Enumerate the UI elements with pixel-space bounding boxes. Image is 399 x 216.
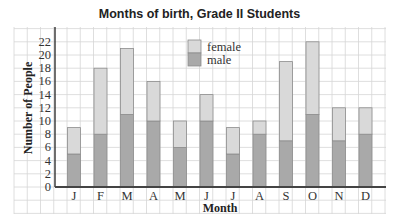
bar-chart: 0246810121416182022 JFMAMJJASOND femalem… bbox=[0, 0, 399, 216]
bar-male bbox=[359, 134, 372, 187]
y-tick-label: 16 bbox=[39, 74, 52, 88]
y-tick-label: 18 bbox=[39, 61, 52, 75]
bar-female bbox=[253, 121, 266, 134]
y-tick-label: 0 bbox=[45, 180, 51, 194]
bar-male bbox=[306, 114, 319, 187]
x-tick-label: N bbox=[334, 189, 343, 203]
bar-female bbox=[147, 81, 160, 121]
bar-male bbox=[280, 141, 293, 187]
bar-male bbox=[94, 134, 107, 187]
y-tick-label: 6 bbox=[45, 140, 51, 154]
bar-female bbox=[200, 95, 213, 121]
bar-female bbox=[174, 121, 187, 147]
y-tick-label: 8 bbox=[45, 127, 51, 141]
bar-male bbox=[200, 121, 213, 187]
bar-female bbox=[306, 42, 319, 115]
x-tick-label: J bbox=[72, 189, 77, 203]
svg-text:male: male bbox=[207, 53, 232, 67]
bar-male bbox=[68, 154, 81, 187]
x-tick-label: D bbox=[361, 189, 370, 203]
x-axis-label: Month bbox=[203, 201, 238, 215]
x-tick-label: F bbox=[97, 189, 104, 203]
bar-female bbox=[121, 48, 134, 114]
bar-male bbox=[147, 121, 160, 187]
bar-female bbox=[94, 68, 107, 134]
bar-female bbox=[359, 108, 372, 134]
y-tick-label: 14 bbox=[39, 88, 52, 102]
legend: femalemale bbox=[188, 40, 241, 67]
x-tick-label: A bbox=[255, 189, 264, 203]
bar-male bbox=[333, 141, 346, 187]
bar-female bbox=[227, 128, 240, 154]
x-tick-label: A bbox=[149, 189, 158, 203]
y-tick-label: 10 bbox=[39, 114, 52, 128]
y-tick-label: 12 bbox=[39, 101, 52, 115]
x-tick-label: O bbox=[308, 189, 317, 203]
y-axis-label: Number of People bbox=[21, 61, 35, 154]
y-tick-label: 4 bbox=[45, 154, 52, 168]
y-tick-label: 22 bbox=[39, 35, 52, 49]
bar-male bbox=[121, 114, 134, 187]
bar-male bbox=[253, 134, 266, 187]
y-tick-label: 20 bbox=[39, 48, 52, 62]
x-tick-label: M bbox=[121, 189, 132, 203]
bar-female bbox=[68, 128, 81, 154]
x-tick-label: S bbox=[283, 189, 290, 203]
bar-female bbox=[280, 62, 293, 141]
x-tick-label: M bbox=[174, 189, 185, 203]
bar-male bbox=[174, 147, 187, 187]
y-tick-label: 2 bbox=[45, 167, 51, 181]
svg-text:female: female bbox=[207, 40, 241, 54]
bar-male bbox=[227, 154, 240, 187]
bar-female bbox=[333, 108, 346, 141]
